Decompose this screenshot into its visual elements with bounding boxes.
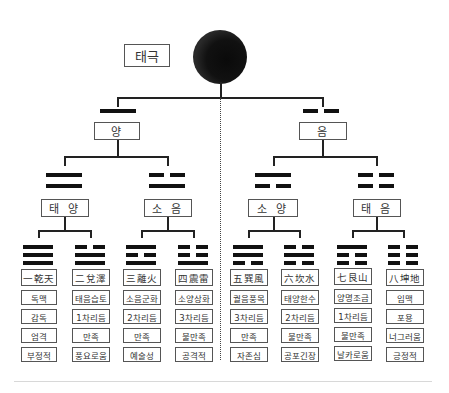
zhen-line-3 [178,261,208,265]
attribute-cell: 소양상화 [175,290,213,305]
attribute-cell: 1차리듬 [72,309,110,324]
attribute-text: 자존심 [237,349,261,361]
attribute-text: 공격적 [182,349,206,361]
connector [352,230,354,238]
xun-line-3-right [251,261,263,265]
attribute-text: 2차리듬 [127,311,156,323]
trigram-label-box-6: 六坎水 [281,269,319,286]
attribute-text: 2차리듬 [285,311,314,323]
level2-taeyang-box: 태 양 [41,199,89,217]
attribute-cell: 만족 [230,328,268,343]
attribute-cell: 감독 [21,309,57,324]
yang-line-solid [100,109,136,113]
attribute-cell: 공포긴장 [281,347,319,362]
connector [403,230,405,238]
kun-line-3-right [406,261,418,265]
soyang-line-1-solid [255,173,291,177]
trigram-label: 八坤地 [389,271,421,285]
attribute-text: 날카로움 [337,348,369,360]
attribute-text: 포용 [397,311,413,323]
trigram-label: 二兌澤 [75,271,107,285]
attribute-cell: 3차리듬 [230,309,268,324]
gen-line-3-left [337,261,349,265]
level1-yin-box: 음 [299,122,347,140]
dui-line-1-right [93,245,105,249]
trigram-label: 五巽風 [233,271,265,285]
attribute-text: 부정적 [27,349,51,361]
taeyang-line-2-solid [46,184,82,188]
connector [273,156,275,166]
attribute-cell: 2차리듬 [281,309,319,324]
connector [322,140,324,156]
gen-line-1 [337,245,367,249]
zhen-line-1-right [196,245,208,249]
attribute-cell: 태양한수 [281,290,319,305]
kan-line-1-left [284,245,296,249]
li-line-2-left [126,253,138,257]
trigram-label: 三離火 [126,271,158,285]
trigram-label-box-5: 五巽風 [230,269,268,286]
attribute-text: 예술성 [130,349,154,361]
xun-line-2 [233,253,263,257]
connector [299,230,301,238]
connector [248,230,250,238]
soeum-line-1-broken-right [170,173,185,177]
yin-line-broken-left [303,109,318,113]
center-divider [220,98,221,360]
connector [117,97,119,107]
trigram-label-box-2: 二兌澤 [72,269,110,286]
xun-line-3-left [233,261,245,265]
level2-soyang-label: 소 양 [257,200,290,216]
connector [38,230,40,238]
qian-line-3 [23,261,53,265]
bottom-divider [14,381,432,382]
trigram-label-box-4: 四震雷 [175,269,213,286]
soeum-line-1-broken-left [149,173,164,177]
kan-line-2 [284,253,314,257]
level1-yang-box: 양 [94,122,140,140]
kun-line-1-right [406,245,418,249]
attribute-text: 3차리듬 [179,311,208,323]
attribute-cell: 긍정적 [386,347,424,362]
kun-line-1-left [388,245,400,249]
connector [64,156,66,166]
connector [141,230,143,238]
attribute-text: 공포긴장 [284,349,316,361]
trigram-label: 一乾天 [23,271,55,285]
level2-soeum-box: 소 음 [144,199,192,217]
attribute-cell: 불만족 [281,328,319,343]
dui-line-1-left [75,245,87,249]
root-label-box: 태극 [124,44,170,67]
connector [64,156,168,158]
taeeum-line-2-broken-left [358,184,373,188]
attribute-cell: 1차리듬 [334,308,372,323]
kan-line-3-right [302,261,314,265]
level2-soyang-box: 소 양 [248,199,298,217]
gen-line-2-right [355,253,367,257]
dui-line-2 [75,253,105,257]
li-line-1 [126,245,156,249]
xun-line-1 [233,245,263,249]
attribute-text: 불만족 [288,330,312,342]
yin-line-broken-right [324,109,339,113]
attribute-text: 너그러움 [389,330,421,342]
attribute-text: 독맥 [31,292,47,304]
soyang-line-2-broken-right [276,184,291,188]
attribute-text: 3차리듬 [234,311,263,323]
connector [117,140,119,156]
connector [220,82,222,98]
attribute-cell: 자존심 [230,347,268,362]
level1-yin-label: 음 [317,123,330,139]
taeeum-line-2-broken-right [379,184,394,188]
li-line-2-right [144,253,156,257]
soyang-line-2-broken-left [255,184,270,188]
root-label: 태극 [135,46,159,65]
gen-line-2-left [337,253,349,257]
attribute-cell: 궐음풍목 [230,290,268,305]
attribute-text: 긍정적 [393,349,417,361]
level2-taeeum-box: 태 음 [353,199,401,217]
attribute-cell: 독맥 [21,290,57,305]
attribute-text: 만족 [83,330,99,342]
attribute-text: 궐음풍목 [233,292,265,304]
attribute-cell: 풍요로움 [72,347,110,362]
